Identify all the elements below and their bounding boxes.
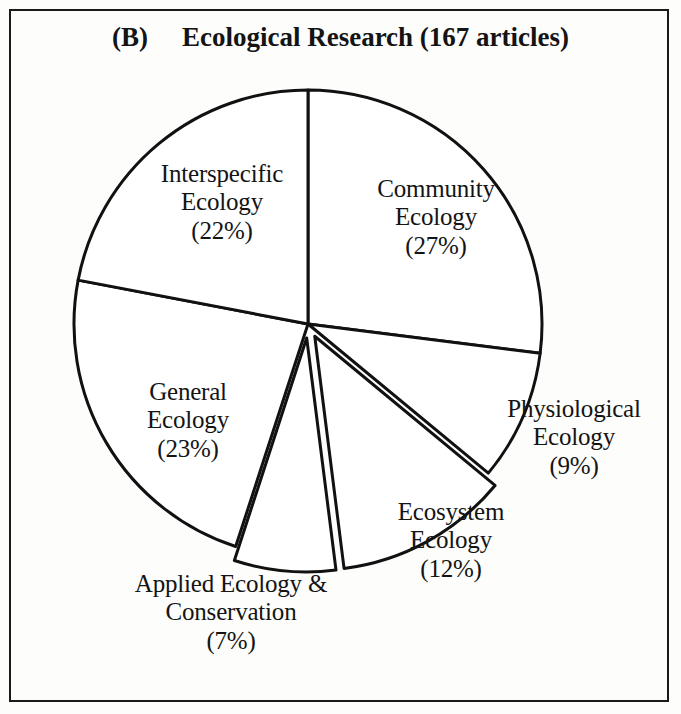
slice-label-line1: General xyxy=(118,378,258,406)
slice-label-line1: Physiological xyxy=(483,395,665,423)
slice-label-line2: Ecology xyxy=(483,423,665,451)
slice-label-applied-ecology-conservation: Applied Ecology & Conservation (7%) xyxy=(110,570,352,655)
slice-label-ecosystem-ecology: Ecosystem Ecology (12%) xyxy=(375,498,527,583)
slice-label-general-ecology: General Ecology (23%) xyxy=(118,378,258,463)
slice-label-line1: Interspecific xyxy=(142,160,302,188)
slice-label-line2: Ecology xyxy=(142,188,302,216)
slice-label-line2: Ecology xyxy=(360,203,512,231)
slice-label-value: (23%) xyxy=(118,435,258,463)
slice-label-interspecific-ecology: Interspecific Ecology (22%) xyxy=(142,160,302,245)
slice-label-line2: Ecology xyxy=(375,526,527,554)
slice-label-line1: Ecosystem xyxy=(375,498,527,526)
slice-label-line2: Conservation xyxy=(110,598,352,626)
slice-label-value: (9%) xyxy=(483,452,665,480)
slice-label-physiological-ecology: Physiological Ecology (9%) xyxy=(483,395,665,480)
slice-label-line1: Community xyxy=(360,175,512,203)
slice-label-value: (22%) xyxy=(142,217,302,245)
slice-label-value: (7%) xyxy=(110,627,352,655)
slice-label-value: (12%) xyxy=(375,555,527,583)
figure-panel-b: (B)Ecological Research (167 articles) In… xyxy=(0,0,681,714)
slice-label-community-ecology: Community Ecology (27%) xyxy=(360,175,512,260)
slice-label-value: (27%) xyxy=(360,232,512,260)
slice-label-line1: Applied Ecology & xyxy=(110,570,352,598)
slice-label-line2: Ecology xyxy=(118,406,258,434)
